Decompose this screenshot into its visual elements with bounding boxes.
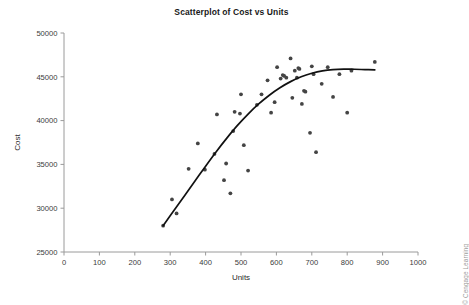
y-tick-label: 40000 — [36, 116, 57, 125]
data-point — [300, 102, 304, 106]
copyright-notice: © Cengage Learning — [462, 244, 469, 305]
x-tick-label: 300 — [164, 258, 177, 267]
y-tick-label: 50000 — [36, 29, 57, 38]
x-tick-label: 700 — [305, 258, 318, 267]
x-tick-label: 500 — [235, 258, 248, 267]
data-point — [326, 65, 330, 69]
data-points — [161, 57, 376, 228]
x-tick-label: 900 — [376, 258, 389, 267]
data-point — [320, 82, 324, 86]
data-point — [290, 96, 294, 100]
x-tick-label: 800 — [341, 258, 354, 267]
data-point — [284, 76, 288, 80]
x-tick-label: 400 — [199, 258, 212, 267]
data-point — [224, 162, 228, 166]
x-tick-label: 200 — [128, 258, 141, 267]
data-point — [373, 60, 377, 64]
data-point — [242, 143, 246, 147]
data-point — [289, 57, 293, 61]
data-point — [273, 100, 277, 104]
data-point — [196, 141, 200, 145]
data-point — [233, 110, 237, 114]
data-point — [304, 90, 308, 94]
data-point — [314, 150, 318, 154]
data-point — [170, 198, 174, 202]
data-point — [298, 67, 302, 71]
data-point — [175, 212, 179, 216]
data-point — [215, 113, 219, 117]
x-tick-label: 600 — [270, 258, 283, 267]
y-axis-ticks: 250003000035000400004500050000 — [36, 29, 64, 257]
data-point — [310, 64, 314, 68]
y-axis-label: Cost — [13, 134, 22, 151]
data-point — [331, 95, 335, 99]
data-point — [246, 169, 250, 173]
y-tick-label: 45000 — [36, 73, 57, 82]
data-point — [345, 111, 349, 115]
data-point — [275, 65, 279, 69]
data-point — [260, 92, 264, 96]
data-point — [238, 112, 242, 116]
data-point — [222, 178, 226, 182]
data-point — [338, 72, 342, 76]
data-point — [269, 111, 273, 115]
x-axis-ticks: 01002003004005006007008009001000 — [62, 252, 427, 267]
fitted-trend-curve — [163, 69, 375, 226]
data-point — [228, 191, 232, 195]
y-tick-label: 30000 — [36, 204, 57, 213]
x-axis-label: Units — [232, 273, 250, 282]
data-point — [266, 78, 270, 82]
data-point — [293, 69, 297, 73]
x-tick-label: 1000 — [410, 258, 427, 267]
x-tick-label: 0 — [62, 258, 66, 267]
y-tick-label: 35000 — [36, 160, 57, 169]
data-point — [308, 131, 312, 135]
data-point — [239, 92, 243, 96]
data-point — [187, 167, 191, 171]
x-tick-label: 100 — [93, 258, 106, 267]
data-point — [279, 77, 283, 81]
y-tick-label: 25000 — [36, 248, 57, 257]
